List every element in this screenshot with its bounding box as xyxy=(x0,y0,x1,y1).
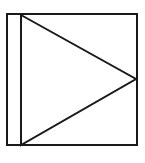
outer-square-shape xyxy=(7,14,137,145)
geometric-figure-svg xyxy=(0,0,145,163)
inner-triangle-shape xyxy=(21,15,136,145)
figure-canvas xyxy=(0,0,145,163)
